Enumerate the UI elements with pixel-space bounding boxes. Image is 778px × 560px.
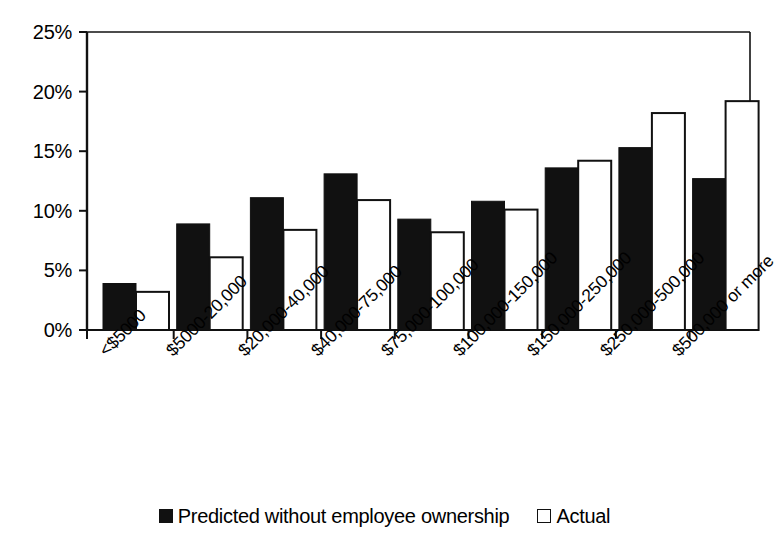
legend-label: Actual	[556, 505, 610, 528]
legend-hollow-square-icon	[537, 509, 551, 523]
legend-entry-1: Predicted without employee ownership	[159, 505, 510, 528]
legend-label: Predicted without employee ownership	[178, 505, 510, 528]
legend-filled-square-icon	[159, 509, 173, 523]
legend-entry-2: Actual	[537, 505, 610, 528]
chart-legend: Predicted without employee ownershipActu…	[0, 498, 769, 534]
